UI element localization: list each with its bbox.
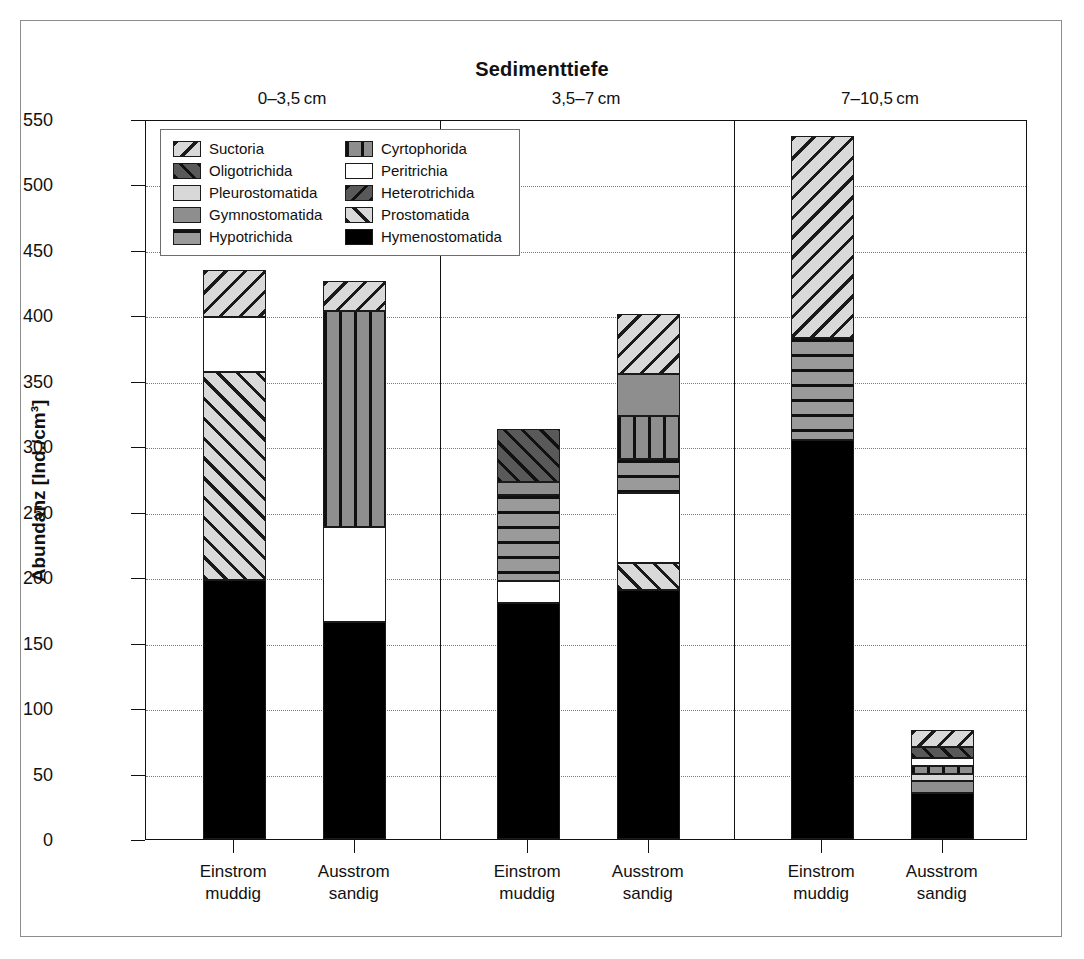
bar-segment-hypotrichida[interactable]	[617, 459, 680, 493]
x-tick-label: Ausstromsandig	[862, 861, 1022, 905]
gridline	[146, 776, 1026, 777]
bar-segment-cyrtophorida[interactable]	[617, 416, 680, 459]
x-tick-mark	[942, 840, 943, 853]
x-tick-label: Ausstromsandig	[568, 861, 728, 905]
y-tick-mark	[131, 709, 145, 710]
gridline	[146, 514, 1026, 515]
x-tick-mark	[527, 840, 528, 853]
bar-segment-pleurostomatida[interactable]	[911, 774, 974, 782]
legend-item-pleurostomatida[interactable]: Pleurostomatida	[173, 184, 335, 201]
bar-segment-peritrichia[interactable]	[203, 317, 266, 372]
bar-segment-oligotrichida[interactable]	[497, 429, 560, 481]
legend-item-prostomatida[interactable]: Prostomatida	[345, 206, 507, 223]
legend-label: Hypotrichida	[209, 228, 292, 245]
legend-item-suctoria[interactable]: Suctoria	[173, 140, 335, 157]
x-tick-mark	[233, 840, 234, 853]
stacked-bar[interactable]	[617, 314, 680, 839]
bar-segment-hymenostomatida[interactable]	[617, 590, 680, 839]
bar-segment-hymenostomatida[interactable]	[323, 622, 386, 839]
bar-segment-suctoria[interactable]	[791, 136, 854, 338]
stacked-bar[interactable]	[791, 136, 854, 839]
gridline	[146, 645, 1026, 646]
gridline	[146, 710, 1026, 711]
y-tick-label: 50	[33, 764, 53, 785]
panel-header-2: 7–10,5 cm	[733, 89, 1027, 109]
legend-swatch-peritrichia	[345, 163, 373, 179]
gridline	[146, 448, 1026, 449]
stacked-bar[interactable]	[911, 730, 974, 839]
bar-segment-gymnostomatida[interactable]	[497, 482, 560, 495]
legend-item-cyrtophorida[interactable]: Cyrtophorida	[345, 140, 507, 157]
y-tick-label: 500	[23, 175, 53, 196]
bar-segment-peritrichia[interactable]	[323, 527, 386, 621]
stacked-bar[interactable]	[203, 270, 266, 839]
legend-swatch-prostomatida	[345, 207, 373, 223]
y-tick-mark	[131, 185, 145, 186]
bar-segment-suctoria[interactable]	[911, 730, 974, 747]
legend-swatch-oligotrichida	[173, 163, 201, 179]
y-tick-mark	[131, 578, 145, 579]
bar-segment-suctoria[interactable]	[617, 314, 680, 374]
bar-segment-hymenostomatida[interactable]	[791, 440, 854, 839]
bar-segment-hymenostomatida[interactable]	[203, 580, 266, 839]
gridline	[146, 383, 1026, 384]
stacked-bar[interactable]	[497, 429, 560, 839]
bar-segment-gymnostomatida[interactable]	[617, 374, 680, 416]
y-tick-label: 200	[23, 568, 53, 589]
legend-label: Hymenostomatida	[381, 228, 502, 245]
y-tick-mark	[131, 120, 145, 121]
x-tick-label: Ausstromsandig	[274, 861, 434, 905]
gridline	[146, 579, 1026, 580]
bar-segment-peritrichia[interactable]	[497, 581, 560, 603]
legend-swatch-hypotrichida	[173, 229, 201, 245]
bar-segment-cyrtophorida[interactable]	[911, 766, 974, 774]
stacked-bar[interactable]	[323, 281, 386, 839]
bar-segment-hypotrichida[interactable]	[497, 495, 560, 581]
y-tick-label: 300	[23, 437, 53, 458]
legend-item-hymenostomatida[interactable]: Hymenostomatida	[345, 228, 507, 245]
legend-label: Pleurostomatida	[209, 184, 317, 201]
legend-item-peritrichia[interactable]: Peritrichia	[345, 162, 507, 179]
bar-segment-prostomatida[interactable]	[617, 563, 680, 590]
legend-label: Suctoria	[209, 140, 264, 157]
y-tick-label: 400	[23, 306, 53, 327]
legend-item-oligotrichida[interactable]: Oligotrichida	[173, 162, 335, 179]
bar-segment-suctoria[interactable]	[203, 270, 266, 317]
bar-segment-cyrtophorida[interactable]	[323, 311, 386, 527]
bar-segment-peritrichia[interactable]	[617, 493, 680, 562]
legend-swatch-pleurostomatida	[173, 185, 201, 201]
bar-segment-peritrichia[interactable]	[911, 758, 974, 766]
legend-label: Cyrtophorida	[381, 140, 467, 157]
bar-segment-suctoria[interactable]	[323, 281, 386, 311]
bar-segment-gymnostomatida[interactable]	[911, 781, 974, 793]
x-tick-mark	[821, 840, 822, 853]
legend-label: Peritrichia	[381, 162, 448, 179]
legend-item-gymnostomatida[interactable]: Gymnostomatida	[173, 206, 335, 223]
y-tick-label: 250	[23, 502, 53, 523]
y-tick-label: 450	[23, 240, 53, 261]
bar-segment-oligotrichida[interactable]	[911, 747, 974, 757]
y-tick-mark	[131, 840, 145, 841]
y-tick-mark	[131, 251, 145, 252]
legend-item-heterotrichida[interactable]: Heterotrichida	[345, 184, 507, 201]
legend-swatch-cyrtophorida	[345, 141, 373, 157]
legend-label: Oligotrichida	[209, 162, 292, 179]
y-tick-label: 100	[23, 699, 53, 720]
legend-label: Prostomatida	[381, 206, 469, 223]
legend-swatch-gymnostomatida	[173, 207, 201, 223]
y-tick-label: 0	[43, 830, 53, 851]
y-tick-mark	[131, 316, 145, 317]
y-tick-mark	[131, 775, 145, 776]
x-tick-mark	[354, 840, 355, 853]
bar-segment-hymenostomatida[interactable]	[497, 603, 560, 839]
legend-label: Heterotrichida	[381, 184, 474, 201]
legend-item-hypotrichida[interactable]: Hypotrichida	[173, 228, 335, 245]
bar-segment-prostomatida[interactable]	[203, 372, 266, 580]
bar-segment-hymenostomatida[interactable]	[911, 793, 974, 839]
y-tick-mark	[131, 382, 145, 383]
legend-swatch-hymenostomatida	[345, 229, 373, 245]
bar-segment-hypotrichida[interactable]	[791, 338, 854, 440]
y-tick-mark	[131, 513, 145, 514]
chart-title: Sedimenttiefe	[0, 58, 1084, 81]
panel-header-1: 3,5–7 cm	[439, 89, 733, 109]
